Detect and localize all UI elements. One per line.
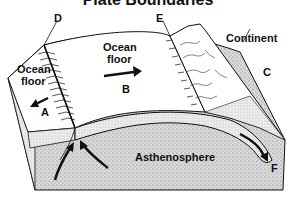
label-ocean-center-2: floor	[107, 54, 131, 65]
label-e: E	[156, 13, 163, 24]
label-ocean-center-1: Ocean	[103, 42, 137, 53]
label-asthenosphere: Asthenosphere	[135, 152, 215, 163]
label-continent: Continent	[226, 33, 277, 44]
label-d: D	[54, 13, 62, 24]
label-b: B	[122, 84, 130, 95]
label-c: C	[263, 67, 271, 78]
label-f: F	[271, 163, 278, 174]
label-ocean-left-2: floor	[21, 76, 45, 87]
plate-boundaries-diagram	[0, 0, 296, 199]
label-a: A	[41, 107, 49, 118]
label-ocean-left-1: Ocean	[17, 64, 51, 75]
